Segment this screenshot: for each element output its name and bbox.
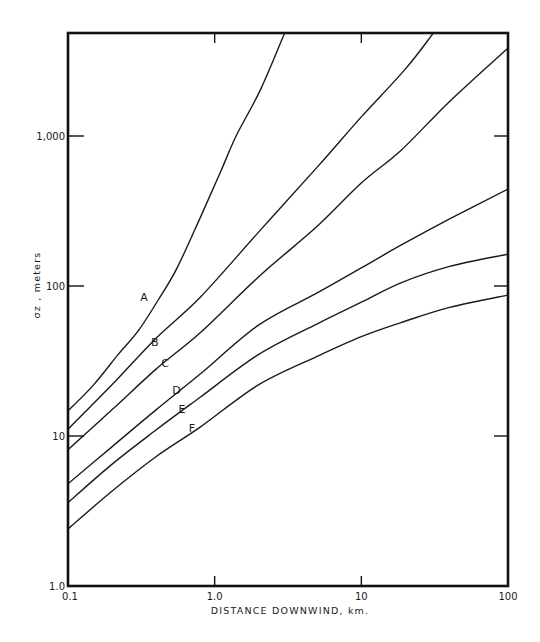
y-tick-label: 10 [52,431,65,442]
curve-label-e: E [179,403,186,416]
curve-b [68,33,433,429]
x-tick-label: 10 [355,591,368,602]
y-tick-label: 100 [46,281,65,292]
curve-c [68,48,508,450]
curve-e [68,254,508,502]
curve-label-a: A [140,291,148,304]
y-tick-label: 1,000 [36,131,65,142]
x-axis-title: DISTANCE DOWNWIND, km. [211,605,370,616]
curve-labels: ABCDEF [140,291,195,436]
curve-f [68,295,508,529]
sigma-z-chart: ABCDEF 0.11.0101001.0101001,000 DISTANCE… [0,0,540,642]
curve-label-f: F [189,422,195,435]
dispersion-curves [68,33,508,529]
y-tick-label: 1.0 [49,581,65,592]
x-tick-label: 1.0 [207,591,223,602]
curve-label-b: B [151,336,159,349]
x-tick-label: 0.1 [62,591,78,602]
x-tick-label: 100 [498,591,517,602]
curve-label-d: D [172,384,180,397]
curve-a [68,33,285,411]
y-axis-title: σz , meters [31,252,42,319]
curve-label-c: C [161,357,169,370]
